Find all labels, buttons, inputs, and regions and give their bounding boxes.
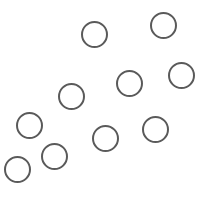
circle-ring-9	[41, 143, 68, 170]
circle-ring-1	[81, 21, 108, 48]
circle-field	[0, 0, 207, 198]
circle-ring-4	[168, 62, 195, 89]
circle-ring-6	[16, 112, 43, 139]
circle-ring-2	[150, 12, 177, 39]
circle-ring-7	[92, 125, 119, 152]
circle-ring-8	[142, 116, 169, 143]
circle-ring-3	[116, 70, 143, 97]
circle-ring-10	[4, 156, 31, 183]
circle-ring-5	[58, 83, 85, 110]
